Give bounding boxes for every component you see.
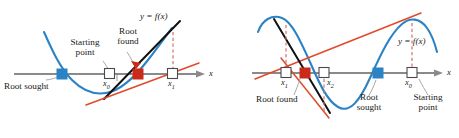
newton-method-figure: y = f(x) x Root sought Starting point Ro…	[0, 0, 459, 138]
right-x1-marker	[281, 68, 291, 78]
left-root-found-marker	[133, 69, 144, 80]
left-root-sought-label: Root sought	[4, 82, 49, 92]
right-starting-point-label-line2: point	[404, 103, 452, 113]
left-starting-point-label: Starting point	[62, 38, 108, 57]
right-axis-label: x	[447, 67, 451, 77]
left-tick-label-x1: x1	[168, 79, 175, 90]
left-starting-point-label-line2: point	[62, 48, 108, 58]
right-starting-point-marker	[407, 68, 417, 78]
right-curve-label: y = f(x)	[398, 36, 426, 46]
right-tangent-at-x0	[255, 13, 421, 79]
left-x1-marker	[168, 69, 178, 79]
right-x2-marker	[319, 68, 329, 78]
left-axis-label: x	[209, 68, 213, 78]
right-root-found-label: Root found	[256, 95, 298, 105]
right-root-sought-label-line2: sought	[348, 103, 390, 113]
right-root-found-marker	[300, 68, 311, 79]
right-tick-label-x0: x0	[405, 78, 412, 89]
left-curve-label: y = f(x)	[140, 11, 168, 21]
left-root-found-label: Root found	[108, 27, 148, 46]
right-tick-label-x1: x1	[281, 78, 288, 89]
figure-canvas	[0, 0, 459, 138]
left-root-found-label-line2: found	[108, 37, 148, 47]
left-starting-point-marker	[105, 69, 115, 79]
left-root-sought-marker	[57, 69, 68, 80]
left-tick-label-x0: x0	[103, 79, 110, 90]
right-starting-point-label: Starting point	[404, 93, 452, 112]
right-root-sought-marker	[373, 68, 384, 79]
right-root-sought-label: Root sought	[348, 93, 390, 112]
right-tick-label-x2: x2	[327, 78, 334, 89]
